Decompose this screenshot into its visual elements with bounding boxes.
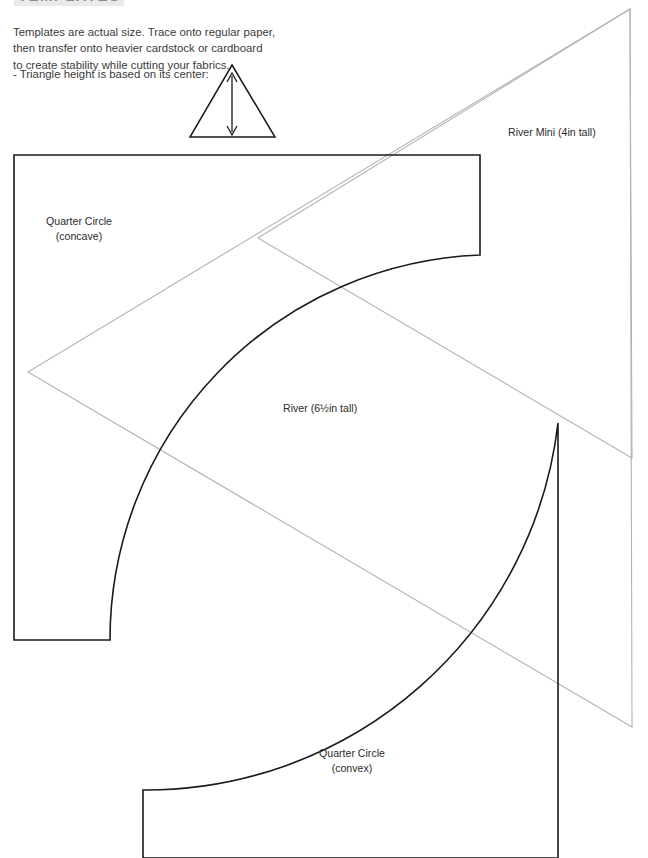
river-triangle-template [28, 9, 632, 727]
label-line-2: (convex) [319, 761, 385, 776]
triangle-height-diagram [190, 65, 275, 137]
label-line-2: (concave) [46, 229, 112, 244]
label-river: River (6½in tall) [283, 401, 357, 416]
label-line-1: Quarter Circle [46, 214, 112, 229]
guide-triangles [28, 9, 632, 727]
river-mini-triangle-template [258, 9, 632, 458]
label-river-mini: River Mini (4in tall) [508, 125, 596, 140]
quarter-circle-convex-template [143, 423, 558, 858]
label-quarter-circle-convex: Quarter Circle (convex) [319, 746, 385, 775]
label-line-1: Quarter Circle [319, 746, 385, 761]
label-quarter-circle-concave: Quarter Circle (concave) [46, 214, 112, 243]
